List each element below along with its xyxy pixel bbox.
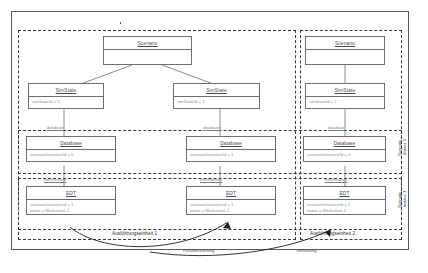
object-database-0[interactable]: Database scenarioInstanceId = 0 (26, 136, 116, 162)
object-scenario-left[interactable]: Scenario (103, 36, 192, 65)
object-scenario-right-header: Scenario (306, 37, 384, 50)
object-edt-1-header: EDT (187, 187, 275, 200)
link-label-database-left: database (47, 125, 64, 130)
object-edt-1-body: scenarioInstanceId = 1 name = Werkstück … (187, 200, 275, 215)
object-edt-2[interactable]: EDT scenarioInstanceId = 1 name = Werkst… (303, 186, 386, 215)
object-scenario-right-name: Scenario (335, 41, 355, 46)
object-simstate-0-body: simStateId = 0 (29, 97, 103, 105)
object-edt-0[interactable]: EDT scenarioInstanceId = 1 name = Werkst… (26, 186, 116, 215)
object-database-1-attr-0: scenarioInstanceId = 1 (190, 152, 272, 158)
object-simstate-2-name: SimState (335, 88, 356, 93)
link-scenario-simstate-1 (162, 65, 216, 85)
link-label-edt-middle: nonInstance (200, 177, 222, 182)
object-simstate-1-name: SimState (206, 88, 227, 93)
link-label-database-middle: database (203, 125, 220, 130)
object-database-2-header: Database (304, 137, 385, 150)
object-edt-0-name: EDT (66, 191, 76, 196)
object-edt-0-attr-1: name = Werkstück 2 (30, 208, 112, 214)
annotation-execution-unit-1: Ausführungseinheit 1 (112, 231, 157, 236)
object-simstate-1-attr-0: simStateId = 1 (177, 99, 256, 105)
object-edt-1-name: EDT (226, 191, 236, 196)
object-simstate-0-attr-0: simStateId = 0 (32, 99, 100, 105)
object-simstate-0[interactable]: SimState simStateId = 0 (28, 83, 104, 109)
object-scenario-left-header: Scenario (104, 37, 191, 50)
object-simstate-0-header: SimState (29, 84, 103, 97)
link-label-edt-left: nonInstance (44, 177, 66, 182)
object-scenario-left-body (104, 50, 191, 52)
object-database-0-body: scenarioInstanceId = 0 (27, 150, 115, 158)
object-simstate-2[interactable]: SimState simStateId = 2 (305, 83, 385, 109)
object-edt-2-name: EDT (339, 191, 349, 196)
object-simstate-1-body: simStateId = 1 (174, 97, 259, 105)
object-database-1[interactable]: Database scenarioInstanceId = 1 (186, 136, 276, 162)
object-database-2-name: Database (334, 141, 356, 146)
object-scenario-left-name: Scenario (137, 41, 157, 46)
object-simstate-1-header: SimState (174, 84, 259, 97)
link-scenario-simstate-0 (78, 65, 132, 85)
object-edt-0-body: scenarioInstanceId = 1 name = Werkstück … (27, 200, 115, 215)
object-database-2[interactable]: Database scenarioInstanceId = 0 (303, 136, 386, 162)
object-scenario-right-body (306, 50, 384, 52)
object-database-0-name: Database (60, 141, 82, 146)
object-edt-0-header: EDT (27, 187, 115, 200)
object-database-2-body: scenarioInstanceId = 0 (304, 150, 385, 158)
object-edt-2-header: EDT (304, 187, 385, 200)
object-database-1-header: Database (187, 137, 275, 150)
region-label-scenario-instance-1-line2: Instanz 1 (402, 182, 407, 216)
object-database-1-body: scenarioInstanceId = 1 (187, 150, 275, 158)
object-edt-2-body: scenarioInstanceId = 1 name = Werkstück … (304, 200, 385, 215)
region-label-scenario-instance-0-line2: Instanz 0 (402, 130, 407, 164)
object-scenario-right[interactable]: Scenario (305, 36, 385, 65)
region-label-scenario-instance-0: Scenario- Instanz 0 (397, 130, 407, 164)
annotation-distribution: Verteilung (296, 248, 317, 253)
link-label-edt-right: nonInstance (325, 177, 347, 182)
annotation-execution-unit-2: Ausführungseinheit 2 (310, 231, 355, 236)
object-simstate-0-name: SimState (56, 88, 77, 93)
object-simstate-2-attr-0: simStateId = 2 (309, 99, 381, 105)
annotation-parallelization: Parallelisierung (183, 248, 215, 253)
object-database-0-header: Database (27, 137, 115, 150)
object-database-1-name: Database (220, 141, 242, 146)
object-edt-1-attr-1: name = Werkstück 2 (190, 208, 272, 214)
diagram-canvas: object Distributed SimStates Example (0, 0, 428, 273)
object-simstate-1[interactable]: SimState simStateId = 1 (173, 83, 260, 109)
object-edt-1[interactable]: EDT scenarioInstanceId = 1 name = Werkst… (186, 186, 276, 215)
object-simstate-2-header: SimState (306, 84, 384, 97)
region-label-scenario-instance-1: Scenario- Instanz 1 (397, 182, 407, 216)
object-simstate-2-body: simStateId = 2 (306, 97, 384, 105)
object-database-2-attr-0: scenarioInstanceId = 0 (307, 152, 382, 158)
link-label-database-right: database (328, 125, 345, 130)
object-edt-2-attr-1: name = Werkstück 2 (307, 208, 382, 214)
object-database-0-attr-0: scenarioInstanceId = 0 (30, 152, 112, 158)
